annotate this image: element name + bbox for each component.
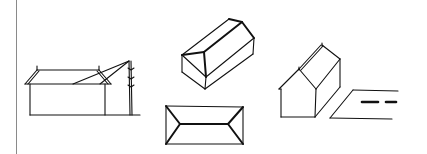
house-elevation-roof (25, 66, 111, 84)
isometric-roof (182, 19, 254, 77)
isometric-walls (182, 38, 254, 89)
service-wires (73, 61, 129, 84)
road-edges (330, 90, 398, 119)
gable-roof (279, 43, 340, 89)
gable-house-isometric-with-road (279, 43, 398, 119)
house-elevation-with-pole (25, 61, 140, 115)
hip-roof-house-isometric (182, 19, 254, 89)
hip-roof-plan-view (166, 106, 243, 144)
house-elevation-walls (30, 84, 105, 115)
gable-walls (281, 59, 340, 117)
road (330, 90, 398, 119)
sketch-canvas (0, 0, 427, 154)
utility-pole (128, 61, 134, 115)
plan-hips-and-ridge (166, 106, 243, 144)
